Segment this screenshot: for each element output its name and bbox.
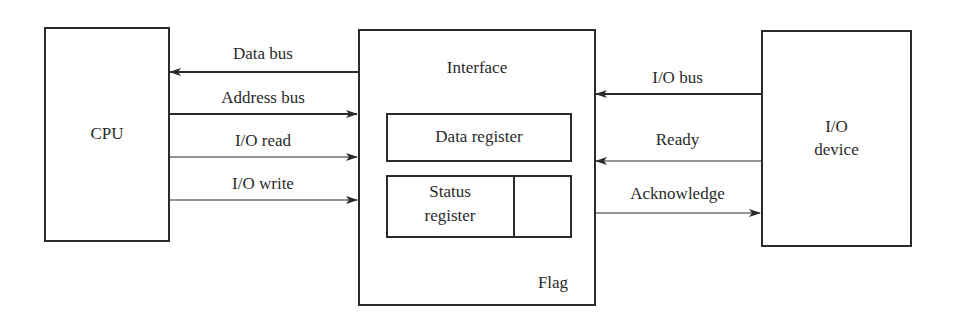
flag-label: Flag [528, 273, 578, 293]
acknowledge-label: Acknowledge [594, 184, 761, 204]
status-register-label-line1: Status [386, 182, 514, 202]
ready-label: Ready [594, 130, 761, 150]
io-device-block [761, 30, 912, 247]
interface-label: Interface [358, 58, 596, 78]
data-register-label: Data register [386, 127, 572, 147]
cpu-label: CPU [44, 124, 170, 144]
io-device-label-line2: device [761, 140, 912, 160]
status-register-label-line2: register [386, 206, 514, 226]
io-write-label: I/O write [168, 174, 358, 194]
io-bus-label: I/O bus [594, 68, 761, 88]
data-bus-label: Data bus [168, 44, 358, 64]
address-bus-label: Address bus [168, 88, 358, 108]
flag-bit-cell [513, 175, 572, 238]
io-read-label: I/O read [168, 131, 358, 151]
io-device-label-line1: I/O [761, 117, 912, 137]
